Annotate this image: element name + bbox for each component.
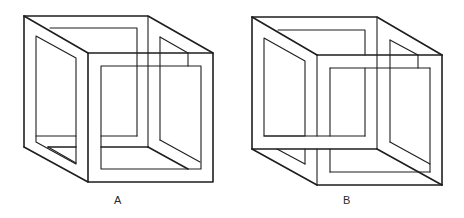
cube-a [24, 16, 213, 182]
cube-diagrams [0, 0, 464, 218]
figure-label-a: A [114, 194, 121, 206]
cube-b [252, 17, 442, 185]
figure-label-b: B [343, 194, 350, 206]
